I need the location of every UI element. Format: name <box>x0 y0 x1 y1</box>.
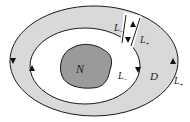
label-d: D <box>149 70 158 82</box>
arrow-down-icon <box>125 37 131 43</box>
label-n: N <box>75 62 85 76</box>
obstacle-n <box>60 44 111 88</box>
arrow-up-icon <box>130 21 136 27</box>
label-outer-boundary: L+ <box>173 75 184 89</box>
label-inner-boundary: L− <box>117 70 128 84</box>
diagram-canvas: N D L− L+ L− L+ <box>0 0 190 122</box>
